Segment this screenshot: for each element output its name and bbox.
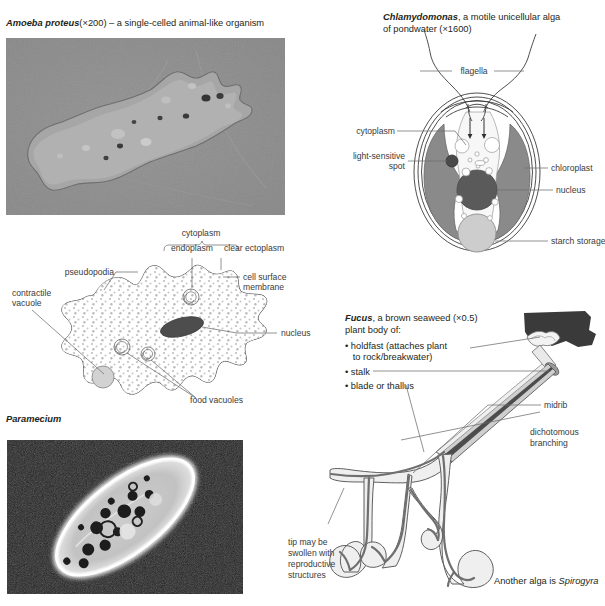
label-dichotomous-1: dichotomous [530, 427, 579, 437]
label-tip-1: tip may be [288, 537, 328, 547]
footnote-species-name: Spirogyra [559, 576, 599, 586]
footnote-prefix: Another alga is [494, 576, 559, 586]
label-tip-2: swollen with [288, 548, 334, 558]
spirogyra-footnote: Another alga is Spirogyra [494, 576, 598, 588]
label-midrib: midrib [544, 400, 567, 410]
label-dichotomous-2: branching [530, 438, 568, 448]
label-tip-3: reproductive [288, 559, 335, 569]
label-tip-4: structures [288, 570, 326, 580]
